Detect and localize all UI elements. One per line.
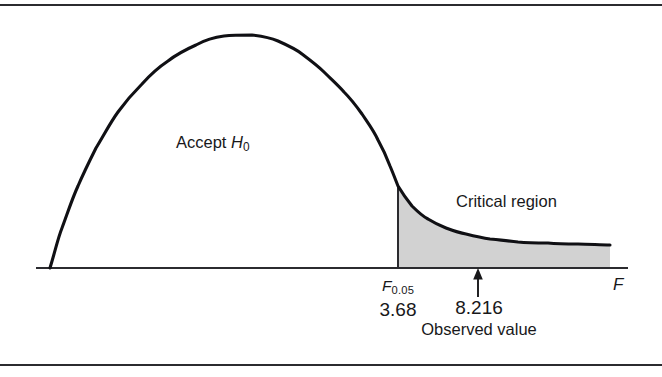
accept-word: Accept <box>176 133 226 151</box>
critical-value-subscript: 0.05 <box>392 284 415 296</box>
h-subscript: 0 <box>243 140 250 154</box>
density-curve <box>50 35 610 268</box>
observed-value-number: 8.216 <box>412 297 546 319</box>
observed-value-tick: 8.216 Observed value <box>412 297 546 339</box>
observed-value-arrow <box>473 268 483 297</box>
figure-container: Accept H0 Critical region F0.05 3.68 8.2… <box>0 0 662 377</box>
observed-value-caption: Observed value <box>412 320 546 339</box>
f-distribution-plot <box>0 0 662 377</box>
critical-value-symbol-line: F0.05 <box>358 277 438 296</box>
h-symbol: H <box>231 133 243 151</box>
critical-region-label: Critical region <box>456 193 557 210</box>
accept-h0-label: Accept H0 <box>176 134 250 154</box>
critical-value-symbol: F <box>382 277 392 294</box>
axis-label-f: F <box>613 276 623 294</box>
